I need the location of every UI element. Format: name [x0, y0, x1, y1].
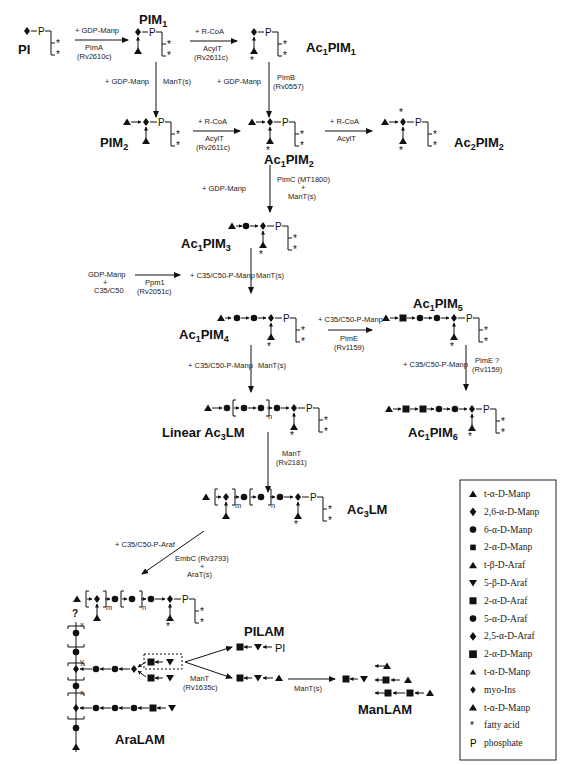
ac1pim1-structure: P * * *: [250, 27, 287, 66]
svg-text:PimE: PimE: [340, 334, 358, 343]
svg-text:*: *: [166, 621, 170, 632]
svg-text:*: *: [328, 515, 332, 526]
compound-label-ac1pim3: Ac1PIM3: [181, 236, 231, 253]
legend-label: phosphate: [484, 738, 523, 748]
mannose-icon: [134, 48, 142, 55]
compound-label-aralam: AraLAM: [115, 732, 165, 747]
svg-text:ManT(s): ManT(s): [163, 77, 191, 86]
reaction-arrow-embc: [142, 531, 204, 574]
svg-text:x: x: [80, 620, 84, 629]
svg-text:P: P: [158, 117, 165, 128]
svg-text:P: P: [466, 313, 473, 324]
compound-label-linear-ac3lm: Linear Ac3LM: [162, 425, 245, 442]
svg-text:(Rv1159): (Rv1159): [334, 343, 365, 352]
svg-text:P: P: [149, 27, 156, 38]
svg-text:AraT(s): AraT(s): [187, 570, 213, 579]
compound-label-ac3lm: Ac3LM: [347, 502, 387, 519]
legend-label: 2-α-D-Araf: [484, 596, 528, 606]
ac1pim2-structure: P * * *: [248, 117, 304, 156]
svg-text:+ R-CoA: + R-CoA: [195, 27, 224, 36]
aralam-arabinan-structure: ? x y x: [68, 608, 182, 752]
svg-text:*: *: [300, 140, 304, 151]
svg-text:*: *: [501, 427, 505, 438]
svg-text:*: *: [176, 129, 180, 140]
svg-text:AcylT: AcylT: [205, 134, 224, 143]
svg-text:x: x: [80, 688, 84, 697]
legend-label: t-α-D-Manp: [484, 703, 530, 713]
svg-text:P: P: [483, 404, 490, 415]
ac2pim2-structure: * P * * *: [381, 107, 437, 156]
compound-label-ac1pim5: Ac1PIM5: [413, 296, 463, 313]
svg-text:(Rv2181): (Rv2181): [276, 458, 307, 467]
svg-text:+ R-CoA: + R-CoA: [330, 117, 359, 126]
pim2-structure: P * *: [123, 117, 180, 151]
svg-text:m: m: [106, 603, 112, 612]
pathway-svg: P * * PI + GDP-Manp PimA (Rv2610c) PIM1 …: [0, 0, 562, 765]
svg-text:(Rv2051c): (Rv2051c): [137, 287, 172, 296]
svg-text:P: P: [306, 403, 313, 414]
svg-text:*: *: [200, 606, 204, 617]
square-icon: [470, 597, 477, 604]
compound-label-ac2pim2: Ac2PIM2: [454, 135, 504, 152]
svg-text:PimB: PimB: [277, 73, 295, 82]
compound-label-pim2: PIM2: [100, 135, 128, 152]
svg-text:AcylT: AcylT: [203, 44, 222, 53]
compound-label-ac1pim2: Ac1PIM2: [264, 152, 314, 169]
circle-icon: [470, 615, 477, 622]
svg-text:y: y: [80, 657, 84, 666]
svg-text:PimE ?: PimE ?: [475, 356, 499, 365]
svg-text:(Rv2611c): (Rv2611c): [194, 53, 229, 62]
svg-text:(Rv2611c): (Rv2611c): [196, 143, 231, 152]
svg-text:*: *: [250, 55, 254, 66]
svg-text:+ C35/C50-P-Manp: + C35/C50-P-Manp: [403, 360, 468, 369]
compound-label-ac1pim6: Ac1PIM6: [408, 425, 458, 442]
svg-text:(Rv0557): (Rv0557): [273, 82, 304, 91]
lam-core-structure: m n P * * *: [73, 591, 204, 632]
svg-text:ManT(s): ManT(s): [256, 271, 284, 280]
ac3lm-structure: m n P * * *: [202, 489, 332, 530]
svg-text:*: *: [300, 129, 304, 140]
svg-text:+: +: [301, 183, 306, 192]
square-dark-icon: [469, 650, 477, 658]
svg-text:*: *: [176, 140, 180, 151]
svg-text:*: *: [293, 233, 297, 244]
svg-text:AcylT: AcylT: [337, 134, 356, 143]
svg-text:P: P: [275, 221, 282, 232]
svg-text:(Rv1159): (Rv1159): [472, 365, 503, 374]
svg-text:*: *: [433, 140, 437, 151]
circle-icon: [470, 526, 477, 533]
svg-text:*: *: [290, 430, 294, 441]
ac1pim5-structure: P * * *: [382, 313, 488, 352]
phosphate-label: P: [38, 26, 45, 37]
svg-text:+ R-CoA: + R-CoA: [198, 117, 227, 126]
svg-text:*: *: [324, 426, 328, 437]
svg-text:*: *: [167, 39, 171, 50]
svg-text:*: *: [200, 617, 204, 628]
svg-text:*: *: [294, 519, 298, 530]
svg-text:*: *: [167, 50, 171, 61]
legend-label: 6-α-D-Manp: [484, 525, 532, 535]
myo-ins-icon: [24, 27, 30, 35]
legend-label: 2-α-D-Manp: [484, 542, 532, 552]
svg-text:ManT(s): ManT(s): [288, 192, 316, 201]
svg-text:*: *: [328, 504, 332, 515]
svg-text:PI: PI: [275, 642, 285, 654]
legend-label: 2-α-D-Manp: [484, 649, 532, 659]
svg-text:*: *: [484, 325, 488, 336]
legend-label: 2,5-α-D-Araf: [484, 631, 535, 641]
svg-text:+ C35/C50-P-Manp: + C35/C50-P-Manp: [318, 315, 383, 324]
svg-text:*: *: [324, 415, 328, 426]
svg-text:m: m: [235, 501, 241, 510]
svg-text:(Rv1635c): (Rv1635c): [183, 683, 218, 692]
compound-label-ac1pim4: Ac1PIM4: [179, 327, 229, 344]
ac1pim3-structure: P * * *: [228, 221, 297, 260]
svg-text:ManT: ManT: [190, 674, 210, 683]
svg-text:+ GDP-Manp: + GDP-Manp: [105, 77, 149, 86]
svg-text:*: *: [399, 145, 403, 156]
svg-text:*: *: [450, 341, 454, 352]
legend-label: myo-Ins: [484, 685, 516, 695]
compound-label-manlam: ManLAM: [358, 702, 412, 717]
pim1-structure: P * *: [134, 27, 171, 61]
svg-text:+ GDP-Manp: + GDP-Manp: [202, 184, 246, 193]
svg-text:C35/C50: C35/C50: [94, 286, 124, 295]
